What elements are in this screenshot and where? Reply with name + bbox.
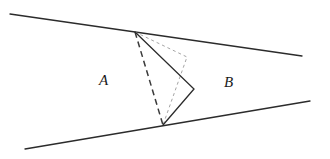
- geometry-figure: A B: [0, 0, 330, 159]
- region-label-a: A: [99, 73, 108, 88]
- lower-wedge-line: [25, 101, 310, 149]
- dotted-inner-triangle: [135, 32, 187, 125]
- figure-canvas: [0, 0, 330, 159]
- upper-wedge-line: [10, 14, 302, 56]
- region-label-b: B: [224, 75, 233, 90]
